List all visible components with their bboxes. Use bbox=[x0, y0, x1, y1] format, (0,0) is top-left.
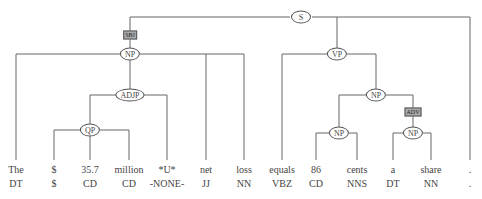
pos-tag: NN bbox=[424, 178, 438, 189]
pos-tag: NN bbox=[237, 178, 251, 189]
token-word: loss bbox=[236, 164, 252, 175]
token-word: share bbox=[420, 164, 441, 175]
pos-tag: CD bbox=[122, 178, 136, 189]
pos-tag: DT bbox=[386, 178, 399, 189]
token-word: 35.7 bbox=[81, 164, 99, 175]
function-tag-sbj: SBJ bbox=[123, 31, 137, 40]
pos-tag: . bbox=[469, 178, 472, 189]
pos-tag: VBZ bbox=[272, 178, 292, 189]
token-word: The bbox=[8, 164, 24, 175]
pos-tag: DT bbox=[9, 178, 22, 189]
token-word: $ bbox=[52, 164, 57, 175]
pos-tag: -NONE- bbox=[150, 178, 184, 189]
function-tag-adv: ADV bbox=[405, 108, 422, 117]
pos-tag: NNS bbox=[347, 178, 367, 189]
pos-tag: JJ bbox=[202, 178, 210, 189]
token-word: a bbox=[391, 164, 395, 175]
token-word: net bbox=[200, 164, 212, 175]
token-word: cents bbox=[347, 164, 368, 175]
token-word: equals bbox=[269, 164, 295, 175]
pos-tag: CD bbox=[83, 178, 97, 189]
token-word: 86 bbox=[311, 164, 321, 175]
token-word: million bbox=[115, 164, 144, 175]
pos-tag: CD bbox=[309, 178, 323, 189]
node-s: S bbox=[291, 11, 311, 24]
token-word: *U* bbox=[158, 164, 175, 175]
pos-tag: $ bbox=[52, 178, 57, 189]
node-adjp: ADJP bbox=[115, 89, 144, 102]
token-word: . bbox=[469, 164, 472, 175]
